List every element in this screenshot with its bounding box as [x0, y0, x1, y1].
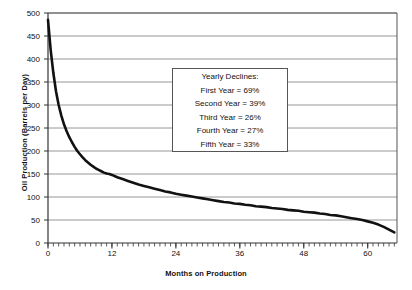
annotation-first-year: First Year = 69% [201, 84, 260, 98]
annotation-fourth-year: Fourth Year = 27% [197, 124, 264, 138]
x-tick-label: 0 [46, 249, 50, 258]
x-tick-label: 48 [299, 249, 308, 258]
x-tick-label: 24 [171, 249, 180, 258]
yearly-declines-annotation-box: Yearly Declines: First Year = 69% Second… [172, 68, 288, 152]
annotation-title: Yearly Declines: [201, 70, 258, 84]
x-tick-label: 60 [363, 249, 372, 258]
annotation-second-year: Second Year = 39% [195, 97, 266, 111]
annotation-third-year: Third Year = 26% [199, 111, 261, 125]
x-tick-label: 12 [107, 249, 116, 258]
x-tick-label: 36 [235, 249, 244, 258]
annotation-fifth-year: Fifth Year = 33% [201, 138, 260, 152]
decline-curve-chart: 050100150200250300350400450500 Oil Produ… [0, 0, 412, 290]
